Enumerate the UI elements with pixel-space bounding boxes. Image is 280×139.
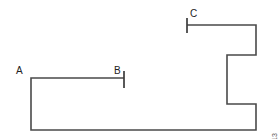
path-diagram-svg bbox=[0, 0, 280, 139]
point-label-b: B bbox=[114, 66, 121, 76]
point-label-c: C bbox=[190, 9, 197, 19]
figure-container: A B C © Cengage Learning 2013 bbox=[0, 0, 280, 139]
copyright-notice: © Cengage Learning 2013 bbox=[271, 133, 278, 139]
path-polyline bbox=[31, 25, 256, 130]
point-label-a: A bbox=[16, 66, 23, 76]
